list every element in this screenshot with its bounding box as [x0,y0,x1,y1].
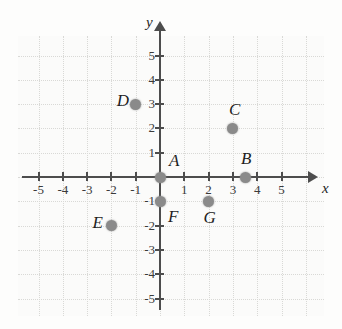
y-axis-tick [155,103,164,105]
x-axis-arrow-icon [308,171,318,183]
x-axis-tick [38,172,40,181]
coordinate-plane-figure: -5-4-3-2-11234554321-1-2-3-4-5 x y ABCDE… [0,0,342,329]
y-tick-label: -4 [133,266,155,282]
x-axis-line [22,176,310,178]
y-axis-tick [155,249,164,251]
y-tick-label: 5 [133,48,155,64]
data-point-label: G [204,208,216,228]
gridline-horizontal [18,104,324,105]
data-point-label: B [241,149,251,169]
y-tick-label: -2 [133,218,155,234]
data-point [240,172,251,183]
x-axis-tick [256,172,258,181]
data-point-label: C [229,100,240,120]
y-axis-tick [155,225,164,227]
x-axis-tick [232,172,234,181]
data-point [203,196,214,207]
data-point-label: D [117,91,129,111]
data-point [155,172,166,183]
y-axis-tick [155,298,164,300]
data-point [155,196,166,207]
x-tick-label: 3 [220,182,246,198]
x-axis-tick [62,172,64,181]
x-axis-tick [208,172,210,181]
y-axis-tick [155,273,164,275]
x-axis-tick [183,172,185,181]
x-tick-label: 4 [244,182,270,198]
gridline-horizontal [18,250,324,251]
x-tick-label: -4 [50,182,76,198]
y-tick-label: -5 [133,291,155,307]
y-tick-label: 2 [133,120,155,136]
data-point-label: F [168,207,178,227]
data-point [106,220,117,231]
y-axis-tick [155,55,164,57]
y-tick-label: 4 [133,72,155,88]
x-tick-label: 5 [269,182,295,198]
data-point [130,99,141,110]
y-tick-label: -3 [133,242,155,258]
x-axis-tick [135,172,137,181]
y-tick-label: 1 [133,145,155,161]
y-tick-label: -1 [133,193,155,209]
x-tick-label: -5 [26,182,52,198]
y-axis-tick [155,127,164,129]
x-axis-tick [86,172,88,181]
x-tick-label: -3 [74,182,100,198]
data-point-label: A [169,151,179,171]
gridline-horizontal [18,299,324,300]
y-axis-label: y [146,14,153,31]
x-axis-label: x [322,180,329,197]
x-tick-label: 1 [171,182,197,198]
y-axis-arrow-icon [154,21,166,31]
data-point-label: E [92,213,102,233]
gridline-horizontal [18,274,324,275]
x-axis-tick [110,172,112,181]
gridline-horizontal [18,80,324,81]
y-axis-tick [155,79,164,81]
x-axis-tick [281,172,283,181]
gridline-horizontal [18,56,324,57]
y-axis-tick [155,152,164,154]
x-tick-label: -2 [98,182,124,198]
gridline-horizontal [18,201,324,202]
gridline-horizontal [18,128,324,129]
y-axis-line [159,30,161,310]
